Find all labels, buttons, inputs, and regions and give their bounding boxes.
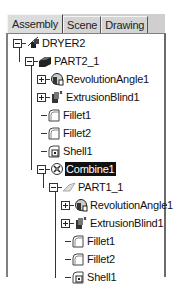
tree-item[interactable]: DRYER2 (13, 35, 86, 51)
tree-item-label: Fillet1 (86, 234, 116, 248)
fillet-icon (71, 252, 85, 266)
tree-item[interactable]: Fillet2 (65, 251, 116, 267)
tree-item[interactable]: PART1_1 (49, 179, 124, 195)
shell-icon (71, 270, 85, 284)
tree-connector (31, 66, 32, 170)
collapse-toggle-icon[interactable] (49, 183, 58, 192)
extrusion-feature-icon (74, 216, 88, 230)
tree-item-label: RevolutionAngle1 (65, 72, 150, 86)
collapse-toggle-icon[interactable] (13, 39, 22, 48)
tree-item[interactable]: PART2_1 (25, 53, 100, 69)
tab-bar: Assembly Scene Drawing (7, 14, 148, 33)
part-ghost-icon (62, 180, 76, 194)
tree-item[interactable]: Shell1 (41, 143, 93, 159)
tree-item-label: PART2_1 (53, 54, 100, 68)
tree-item-label: Fillet2 (62, 126, 92, 140)
combine-icon (50, 162, 64, 176)
revolution-feature-icon (74, 198, 88, 212)
part-icon (38, 54, 52, 68)
expand-toggle-icon[interactable] (37, 75, 46, 84)
tree-item-label: Fillet2 (86, 252, 116, 266)
expand-toggle-icon[interactable] (61, 201, 70, 210)
tree-item-label: Combine1 (65, 162, 116, 176)
fillet-icon (47, 126, 61, 140)
tree-item-label: Shell1 (86, 270, 117, 284)
tree-item-label: DRYER2 (41, 36, 86, 50)
tree-item[interactable]: RevolutionAngle1 (61, 197, 174, 213)
tree-connector (55, 192, 56, 278)
collapse-toggle-icon[interactable] (25, 57, 34, 66)
fillet-icon (47, 108, 61, 122)
extrusion-feature-icon (50, 90, 64, 104)
tree-item[interactable]: Combine1 (37, 161, 116, 177)
assembly-icon (26, 36, 40, 50)
tree-item-label: ExtrusionBlind1 (65, 90, 140, 104)
shell-icon (47, 144, 61, 158)
tab-drawing[interactable]: Drawing (101, 16, 148, 34)
tab-scene[interactable]: Scene (63, 16, 101, 34)
expand-toggle-icon[interactable] (37, 93, 46, 102)
tree-item-label: Fillet1 (62, 108, 92, 122)
tree-item-label: Shell1 (62, 144, 93, 158)
tree-item[interactable]: ExtrusionBlind1 (61, 215, 164, 231)
tree-item[interactable]: RevolutionAngle1 (37, 71, 150, 87)
tree-item[interactable]: Shell1 (65, 269, 117, 285)
tab-assembly[interactable]: Assembly (7, 14, 63, 34)
tree-item-label: PART1_1 (77, 180, 124, 194)
tree-item-label: ExtrusionBlind1 (89, 216, 164, 230)
revolution-feature-icon (50, 72, 64, 86)
tree-item[interactable]: ExtrusionBlind1 (37, 89, 140, 105)
tree-item[interactable]: Fillet1 (65, 233, 116, 249)
tree-item-label: RevolutionAngle1 (89, 198, 174, 212)
tree-item[interactable]: Fillet1 (41, 107, 92, 123)
tree-item[interactable]: Fillet2 (41, 125, 92, 141)
expand-toggle-icon[interactable] (61, 219, 70, 228)
collapse-toggle-icon[interactable] (37, 165, 46, 174)
fillet-icon (71, 234, 85, 248)
